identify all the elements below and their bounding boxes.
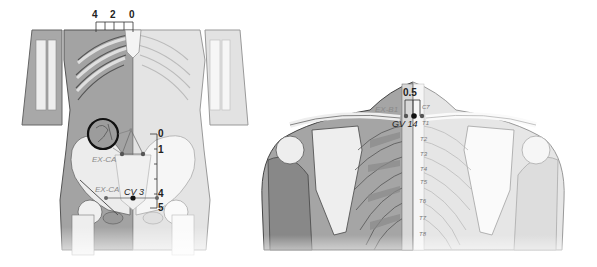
vertebra-label-t5: T5 <box>420 179 427 185</box>
vertebra-label-t7: T7 <box>419 215 426 221</box>
point-label-gv14: GV 14 <box>392 120 418 129</box>
vscale-label-1: 1 <box>158 145 164 155</box>
point-label-ex-ca-lower: EX-CA <box>95 186 119 194</box>
vscale-label-5: 5 <box>158 203 164 213</box>
vscale-label-4: 4 <box>158 189 164 199</box>
scale-label-2: 2 <box>110 10 116 20</box>
vertebra-label-t2: T2 <box>420 136 427 142</box>
posterior-back-figure: 0.5 EX-B1 GV 14 C7 T1 T2 T3 T4 T5 T6 T7 … <box>250 0 597 267</box>
scale-label-0-5: 0.5 <box>403 88 417 98</box>
point-label-cv3: CV 3 <box>124 188 144 197</box>
vscale-label-0: 0 <box>158 129 164 139</box>
vertebra-label-t6: T6 <box>419 198 426 204</box>
vertebra-label-t1: T1 <box>422 120 429 126</box>
posterior-back-illustration <box>250 0 597 267</box>
scale-label-0: 0 <box>129 10 135 20</box>
vertebra-label-c7: C7 <box>422 104 430 110</box>
point-label-ex-b1: EX-B1 <box>375 106 398 114</box>
vertebra-label-t4: T4 <box>420 166 427 172</box>
point-label-ex-ca: EX-CA <box>92 156 116 164</box>
vertebra-label-t8: T8 <box>419 231 426 237</box>
vertebra-label-t3: T3 <box>420 151 427 157</box>
anterior-torso-figure: 4 2 0 0 1 4 5 EX-CA EX-CA CV 3 <box>0 0 250 267</box>
scale-label-4: 4 <box>92 10 98 20</box>
anterior-torso-illustration <box>0 0 250 267</box>
